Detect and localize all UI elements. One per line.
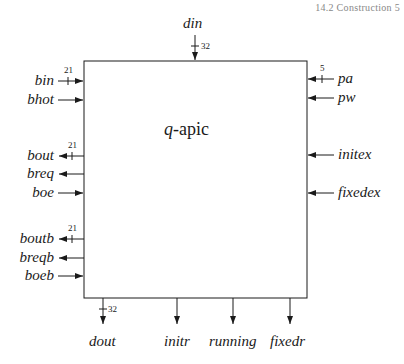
block-diagram bbox=[0, 0, 404, 364]
port-label-initr: initr bbox=[164, 334, 190, 349]
port-label-bout: bout bbox=[27, 148, 54, 163]
bus-width-dout: 32 bbox=[108, 305, 117, 314]
module-title: q-apic bbox=[164, 120, 209, 138]
module-box bbox=[84, 61, 307, 298]
port-label-boeb: boeb bbox=[25, 268, 54, 283]
port-label-din: din bbox=[183, 16, 202, 31]
port-label-boutb: boutb bbox=[20, 231, 54, 246]
bus-width-din: 32 bbox=[201, 42, 210, 51]
bus-width-boutb: 21 bbox=[68, 224, 77, 233]
port-label-pa: pa bbox=[338, 71, 353, 86]
port-label-fixedr: fixedr bbox=[270, 334, 305, 349]
bus-width-bout: 21 bbox=[68, 141, 77, 150]
port-label-boe: boe bbox=[32, 185, 54, 200]
bus-width-pa: 5 bbox=[320, 64, 325, 73]
port-label-running: running bbox=[209, 334, 257, 349]
port-label-breq: breq bbox=[27, 166, 54, 181]
port-label-bin: bin bbox=[35, 73, 54, 88]
port-label-bhot: bhot bbox=[27, 92, 54, 107]
port-label-fixedex: fixedex bbox=[338, 185, 380, 200]
port-label-breqb: breqb bbox=[20, 250, 54, 265]
port-label-initex: initex bbox=[338, 147, 371, 162]
port-label-dout: dout bbox=[89, 334, 116, 349]
bus-width-bin: 21 bbox=[64, 66, 73, 75]
port-label-pw: pw bbox=[338, 90, 356, 105]
